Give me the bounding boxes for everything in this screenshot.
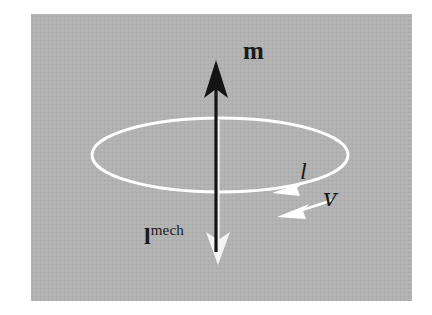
figure-root: m lmech l ᴠ xyxy=(0,0,432,315)
velocity-label: ᴠ xyxy=(323,185,337,210)
angular-momentum-label-superscript: mech xyxy=(151,222,184,238)
gray-panel xyxy=(31,14,412,301)
diagram-canvas xyxy=(0,0,432,315)
angular-momentum-label-base: l xyxy=(144,223,151,249)
magnetic-moment-label: m xyxy=(243,38,264,63)
angular-momentum-label: lmech xyxy=(144,223,184,248)
current-label: l xyxy=(300,159,307,183)
